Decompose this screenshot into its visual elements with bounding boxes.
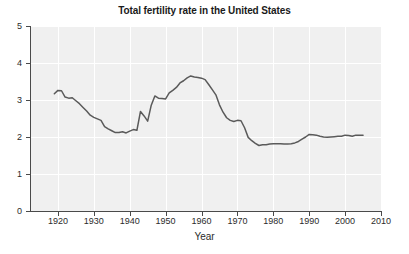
x-tick-label: 1930	[74, 217, 114, 226]
fertility-rate-line	[54, 76, 363, 146]
x-tick-label: 1920	[38, 217, 78, 226]
x-tick-label: 1970	[217, 217, 257, 226]
y-tick-label: 0	[2, 207, 22, 216]
y-tick-label: 4	[2, 59, 22, 68]
data-series-layer	[31, 26, 381, 211]
x-tick-label: 2000	[325, 217, 365, 226]
x-tick-label: 1990	[289, 217, 329, 226]
y-tick-label: 3	[2, 96, 22, 105]
x-tick-label: 1980	[253, 217, 293, 226]
x-axis-label: Year	[0, 231, 409, 242]
y-tick-label: 5	[2, 22, 22, 31]
x-tick-label: 1950	[146, 217, 186, 226]
y-tick-label: 2	[2, 133, 22, 142]
y-tick-mark	[26, 211, 31, 212]
fertility-rate-chart: Total fertility rate in the United State…	[0, 0, 409, 254]
y-tick-label: 1	[2, 170, 22, 179]
x-tick-label: 2010	[361, 217, 401, 226]
x-tick-label: 1940	[110, 217, 150, 226]
x-tick-label: 1960	[182, 217, 222, 226]
x-axis-line	[30, 211, 382, 212]
chart-title: Total fertility rate in the United State…	[0, 5, 409, 16]
